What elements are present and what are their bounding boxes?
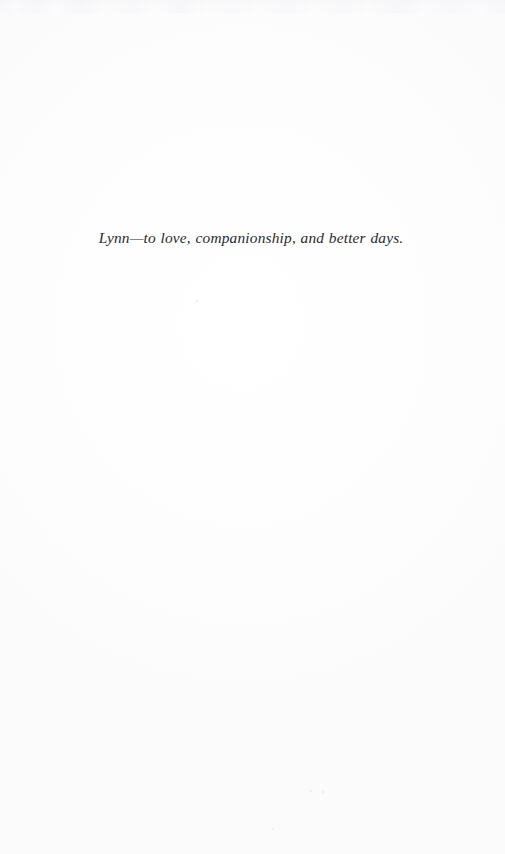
scan-speck — [180, 548, 181, 549]
scan-speck — [436, 845, 437, 846]
dedication-text: Lynn—to love, companionship, and better … — [99, 228, 404, 248]
scan-artifact-band-icon — [0, 0, 505, 13]
scan-speck — [196, 300, 198, 302]
scan-speck — [498, 612, 499, 613]
scan-speck — [322, 791, 324, 793]
scanned-page: Lynn—to love, companionship, and better … — [0, 0, 505, 854]
paper-texture — [0, 0, 505, 854]
scan-speck — [272, 828, 274, 830]
scan-speck — [92, 838, 93, 839]
dedication-block: Lynn—to love, companionship, and better … — [0, 228, 505, 248]
scan-speck — [310, 790, 312, 792]
